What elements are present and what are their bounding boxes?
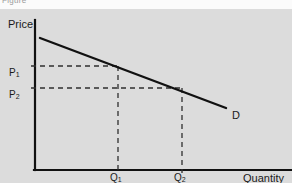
demand-curve-figure: Figure Price Quantity P1 P2 Q1 Q2 D [0,0,292,183]
demand-curve-label: D [232,109,240,121]
figure-caption-strip: Figure [0,0,292,9]
x-axis-label: Quantity [243,172,284,183]
x-tick-label-q2: Q2 [174,172,186,183]
plot-area: Price Quantity P1 P2 Q1 Q2 D [0,9,292,183]
y-tick-label-p2-subscript: 2 [16,93,20,100]
y-tick-label-p1: P1 [9,67,20,78]
demand-curve-line [40,38,226,108]
x-tick-label-q1-subscript: 1 [118,176,122,183]
y-tick-label-p2-base: P [9,89,16,100]
x-tick-label-q2-subscript: 2 [182,176,186,183]
y-tick-label-p1-base: P [9,67,16,78]
plot-graphics [0,9,292,183]
y-tick-label-p1-subscript: 1 [16,71,20,78]
y-axis-label: Price [8,18,33,30]
x-tick-label-q2-base: Q [174,172,182,183]
figure-caption-text: Figure [2,0,26,5]
y-tick-label-p2: P2 [9,89,20,100]
x-tick-label-q1-base: Q [110,172,118,183]
x-tick-label-q1: Q1 [110,172,122,183]
